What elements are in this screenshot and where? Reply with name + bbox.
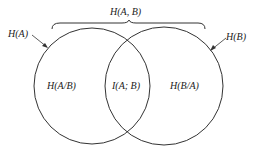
entropy-a-label: H(A)	[8, 28, 28, 39]
conditional-b-given-a-label: H(B/A)	[170, 80, 199, 91]
venn-diagram	[0, 0, 258, 150]
entropy-b-label: H(B)	[226, 31, 246, 42]
arrow-a	[32, 35, 48, 48]
joint-brace	[52, 20, 205, 29]
arrow-b	[210, 38, 226, 51]
mutual-information-label: I(A; B)	[112, 80, 140, 91]
conditional-a-given-b-label: H(A/B)	[47, 80, 76, 91]
joint-entropy-label: H(A, B)	[110, 6, 141, 17]
